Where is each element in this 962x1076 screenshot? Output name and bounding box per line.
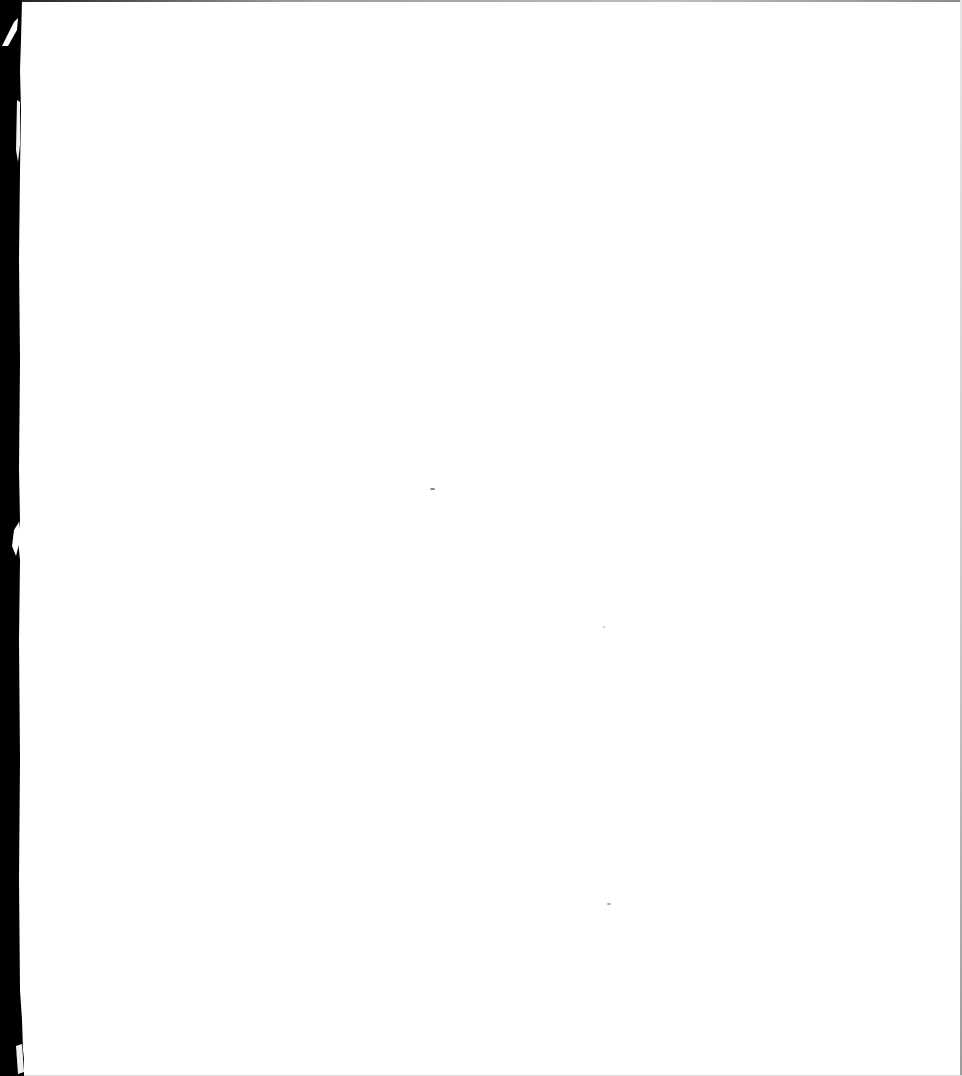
page-top-edge (0, 0, 962, 2)
scan-speck (607, 903, 611, 905)
scanned-page (0, 0, 962, 1076)
scan-speck (603, 626, 605, 628)
binding-strip (0, 0, 24, 1076)
scan-speck (430, 488, 435, 490)
